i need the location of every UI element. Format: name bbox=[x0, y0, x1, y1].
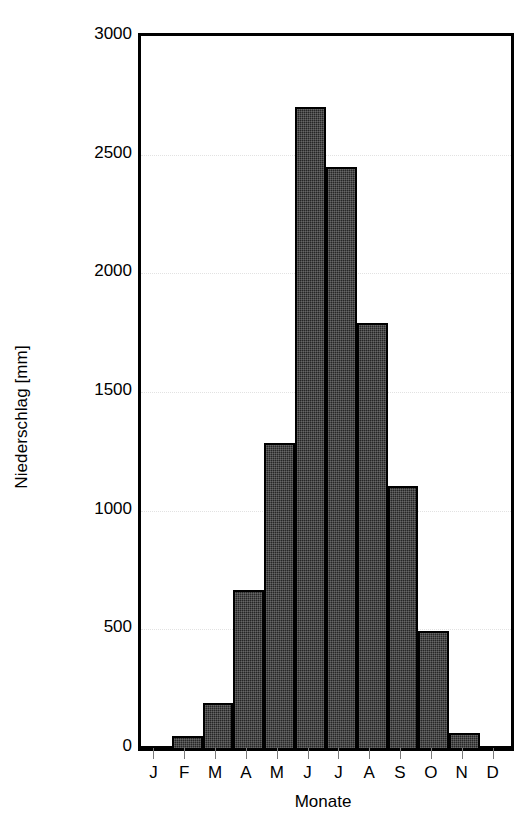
bar-chart-figure: Niederschlag [mm] 0500100015002000250030… bbox=[0, 0, 521, 833]
bar-slot bbox=[449, 36, 480, 748]
bar-slot bbox=[295, 36, 326, 748]
x-axis-tick-labels: JFMAMJJASOND bbox=[138, 760, 508, 786]
bar-slot bbox=[172, 36, 203, 748]
x-tick-mark bbox=[400, 748, 401, 759]
x-tick-label: A bbox=[230, 760, 261, 786]
x-tick-slot bbox=[477, 748, 508, 760]
x-tick-slot bbox=[200, 748, 231, 760]
x-tick-slot bbox=[354, 748, 385, 760]
x-tick-mark bbox=[184, 748, 185, 759]
bar-slot bbox=[480, 36, 511, 748]
plot-area bbox=[138, 33, 514, 751]
x-axis-title: Monate bbox=[138, 792, 508, 812]
x-tick-mark bbox=[246, 748, 247, 759]
x-tick-slot bbox=[415, 748, 446, 760]
y-tick-label: 1500 bbox=[48, 381, 132, 398]
bar-a-7 bbox=[357, 323, 388, 748]
plot-inner bbox=[141, 36, 511, 748]
bar-o-9 bbox=[418, 631, 449, 748]
x-tick-label: F bbox=[169, 760, 200, 786]
x-tick-mark bbox=[153, 748, 154, 759]
bar-f-1 bbox=[172, 736, 203, 748]
x-tick-slot bbox=[385, 748, 416, 760]
bar-m-4 bbox=[264, 443, 295, 748]
bar-slot bbox=[264, 36, 295, 748]
x-tick-mark bbox=[277, 748, 278, 759]
bar-slot bbox=[141, 36, 172, 748]
x-tick-label: M bbox=[261, 760, 292, 786]
x-tick-mark bbox=[462, 748, 463, 759]
x-tick-label: N bbox=[446, 760, 477, 786]
bar-j-5 bbox=[295, 107, 326, 748]
x-tick-slot bbox=[138, 748, 169, 760]
bar-s-8 bbox=[388, 486, 419, 748]
x-tick-label: J bbox=[292, 760, 323, 786]
bar-series bbox=[141, 36, 511, 748]
x-tick-slot bbox=[230, 748, 261, 760]
bar-slot bbox=[418, 36, 449, 748]
bar-slot bbox=[203, 36, 234, 748]
bar-a-3 bbox=[233, 590, 264, 748]
bar-slot bbox=[388, 36, 419, 748]
x-tick-label: O bbox=[415, 760, 446, 786]
x-axis-ticks bbox=[138, 748, 508, 760]
y-tick-label: 3000 bbox=[48, 25, 132, 42]
x-tick-slot bbox=[292, 748, 323, 760]
x-tick-slot bbox=[446, 748, 477, 760]
x-tick-label: J bbox=[138, 760, 169, 786]
x-tick-label: J bbox=[323, 760, 354, 786]
bar-m-2 bbox=[203, 703, 234, 748]
y-tick-label: 500 bbox=[48, 618, 132, 635]
x-tick-mark bbox=[215, 748, 216, 759]
bar-slot bbox=[326, 36, 357, 748]
x-tick-mark bbox=[308, 748, 309, 759]
y-tick-label: 2500 bbox=[48, 143, 132, 160]
x-tick-label: M bbox=[200, 760, 231, 786]
y-axis-title: Niederschlag [mm] bbox=[0, 0, 44, 833]
x-tick-slot bbox=[169, 748, 200, 760]
bar-slot bbox=[357, 36, 388, 748]
x-tick-slot bbox=[323, 748, 354, 760]
y-tick-label: 2000 bbox=[48, 262, 132, 279]
y-tick-label: 1000 bbox=[48, 499, 132, 516]
x-tick-mark bbox=[338, 748, 339, 759]
x-tick-slot bbox=[261, 748, 292, 760]
x-tick-label: A bbox=[354, 760, 385, 786]
y-axis-tick-labels: 050010001500200025003000 bbox=[48, 33, 132, 745]
bar-n-10 bbox=[449, 733, 480, 748]
y-tick-label: 0 bbox=[48, 737, 132, 754]
x-tick-label: S bbox=[385, 760, 416, 786]
y-axis-title-text: Niederschlag [mm] bbox=[12, 345, 32, 488]
x-tick-label: D bbox=[477, 760, 508, 786]
x-tick-mark bbox=[431, 748, 432, 759]
x-tick-mark bbox=[369, 748, 370, 759]
bar-j-6 bbox=[326, 167, 357, 748]
bar-slot bbox=[233, 36, 264, 748]
x-tick-mark bbox=[493, 748, 494, 759]
